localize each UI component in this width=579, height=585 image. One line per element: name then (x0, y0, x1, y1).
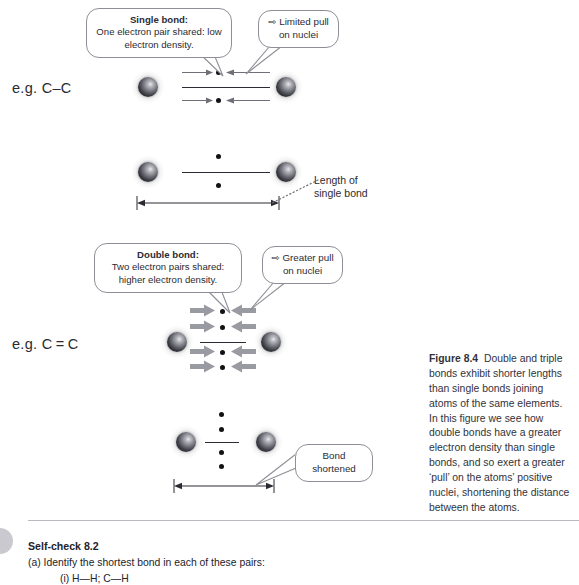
label-length-line2: single bond (314, 187, 368, 200)
pull-arrow-double-row4-right (230, 360, 256, 373)
pull-arrow-single-bottom-left (182, 97, 214, 105)
leader-line-length-label (272, 178, 320, 206)
atom-sphere-left-single (131, 70, 165, 104)
callout-limited-pull-tail (246, 46, 291, 76)
electron-dot-shortened-3 (219, 450, 224, 455)
callout-double-bond: Double bond: Two electron pairs shared: … (94, 243, 242, 293)
bond-line-single (182, 87, 270, 88)
callout-greater-pull-line1: Greater pull (282, 252, 333, 263)
callout-single-bond: Single bond: One electron pair shared: l… (86, 8, 232, 58)
callout-greater-pull-tail (250, 282, 295, 312)
callout-bond-shortened-line1: Bond (303, 450, 365, 463)
callout-limited-pull-line1: Limited pull (279, 16, 329, 27)
label-length-line1: Length of (314, 174, 368, 187)
electron-dot-length-top (216, 154, 221, 159)
greater-pull-arrow-icon: ⇨ (271, 252, 279, 263)
atom-sphere-left-shortened (169, 425, 203, 459)
figure-caption-text: Double and triple bonds exhibit shorter … (429, 353, 569, 513)
pull-arrow-double-row2-left (190, 320, 216, 333)
bond-line-double (200, 342, 246, 343)
electron-dot-double-4 (220, 365, 225, 370)
atom-sphere-left-double (160, 325, 194, 359)
electron-dot-double-3 (220, 350, 225, 355)
electron-dot-single-bottom (216, 98, 221, 103)
pull-arrow-double-row3-left (190, 345, 216, 358)
callout-single-bond-title: Single bond: (95, 14, 223, 26)
example-label-single-bond: e.g. C–C (12, 80, 72, 96)
example-label-double-bond: e.g. C = C (12, 336, 78, 352)
self-check-divider (28, 520, 579, 521)
callout-bond-shortened-tail (256, 451, 298, 487)
callout-limited-pull-line2: on nuclei (266, 29, 331, 42)
electron-dot-length-bottom (216, 183, 221, 188)
atom-sphere-left-length (131, 155, 165, 189)
callout-single-bond-line2: electron density. (95, 39, 223, 51)
callout-bond-shortened: Bond shortened (295, 444, 373, 482)
pull-arrow-double-row3-right (230, 345, 256, 358)
electron-dot-shortened-2 (219, 427, 224, 432)
bond-line-length (182, 172, 270, 173)
self-check-title: Self-check 8.2 (28, 540, 99, 552)
pull-arrow-double-row2-right (230, 320, 256, 333)
self-check-item-i: (i) H—H; C—H (60, 573, 129, 584)
callout-double-bond-line2: higher electron density. (103, 274, 233, 286)
atom-sphere-right-double (254, 325, 288, 359)
figure-caption-label: Figure 8.4 (429, 353, 478, 364)
electron-dot-double-2 (220, 325, 225, 330)
pull-arrow-single-bottom-right (226, 97, 270, 105)
callout-bond-shortened-line2: shortened (303, 463, 365, 476)
callout-double-bond-title: Double bond: (103, 249, 233, 261)
pull-arrow-double-row4-left (190, 360, 216, 373)
electron-dot-shortened-1 (219, 412, 224, 417)
self-check-question-a: (a) Identify the shortest bond in each o… (28, 557, 265, 568)
electron-dot-shortened-4 (219, 464, 224, 469)
figure-caption: Figure 8.4 Double and triple bonds exhib… (429, 352, 571, 516)
limited-pull-arrow-icon: ⇨ (268, 16, 276, 27)
callout-greater-pull: ⇨ Greater pull on nuclei (262, 246, 343, 284)
dimension-line-single-bond (135, 195, 281, 211)
callout-greater-pull-line2: on nuclei (270, 265, 335, 278)
callout-limited-pull: ⇨ Limited pull on nuclei (258, 10, 339, 48)
bond-line-shortened (205, 442, 239, 443)
callout-single-bond-line1: One electron pair shared: low (95, 26, 223, 38)
callout-double-bond-line1: Two electron pairs shared: (103, 261, 233, 273)
self-check-bullet-icon (0, 528, 13, 554)
label-length-of-single-bond: Length of single bond (314, 174, 368, 200)
